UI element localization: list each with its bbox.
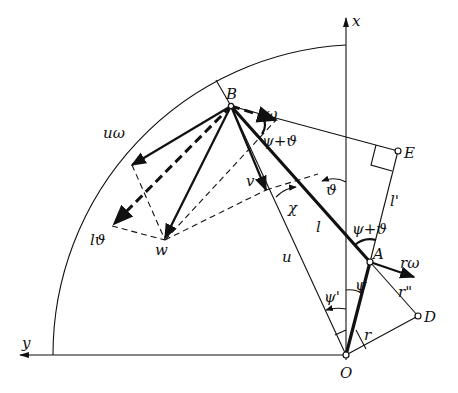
label-psi-prime: ψ' — [324, 288, 340, 306]
label-r: r — [364, 326, 372, 344]
vector-l-theta — [114, 106, 231, 224]
angle-arc-chi — [276, 187, 296, 197]
kinematics-diagram: x y B A E D O w rω — [0, 0, 458, 393]
label-psi: ψ — [355, 276, 367, 294]
label-r-double-prime: r" — [398, 283, 412, 301]
label-l-prime: l' — [390, 192, 399, 210]
point-D — [415, 313, 421, 319]
point-O — [343, 352, 349, 358]
dash-ltheta-to-w — [112, 226, 165, 240]
line-OD — [346, 316, 418, 355]
x-axis-label: x — [352, 12, 361, 30]
label-u-omega: uω — [103, 124, 125, 142]
angle-arc-psi-prime — [326, 308, 346, 310]
point-E — [395, 148, 401, 154]
label-l: l — [316, 218, 321, 236]
label-A: A — [371, 245, 384, 263]
dash-w-to-v1 — [165, 190, 266, 240]
label-E: E — [403, 144, 415, 162]
label-psi-plus-theta-B: ψ+ϑ — [262, 132, 297, 150]
label-r-omega-B: rω — [258, 105, 277, 123]
label-theta: ϑ — [326, 181, 337, 199]
label-w: w — [155, 241, 168, 259]
label-psi-plus-theta-A: ψ+ϑ — [352, 220, 387, 238]
label-O: O — [340, 364, 352, 382]
label-B: B — [225, 85, 237, 103]
point-B — [228, 103, 233, 108]
label-r-omega-A: rω — [400, 254, 419, 272]
label-v: v — [246, 172, 255, 190]
label-u: u — [282, 248, 292, 266]
label-D: D — [423, 308, 436, 326]
circle-arc — [53, 45, 346, 355]
label-l-theta: lϑ — [90, 231, 106, 249]
y-axis-label: y — [21, 334, 31, 352]
line-BE — [231, 106, 398, 151]
label-chi: χ — [287, 199, 298, 217]
